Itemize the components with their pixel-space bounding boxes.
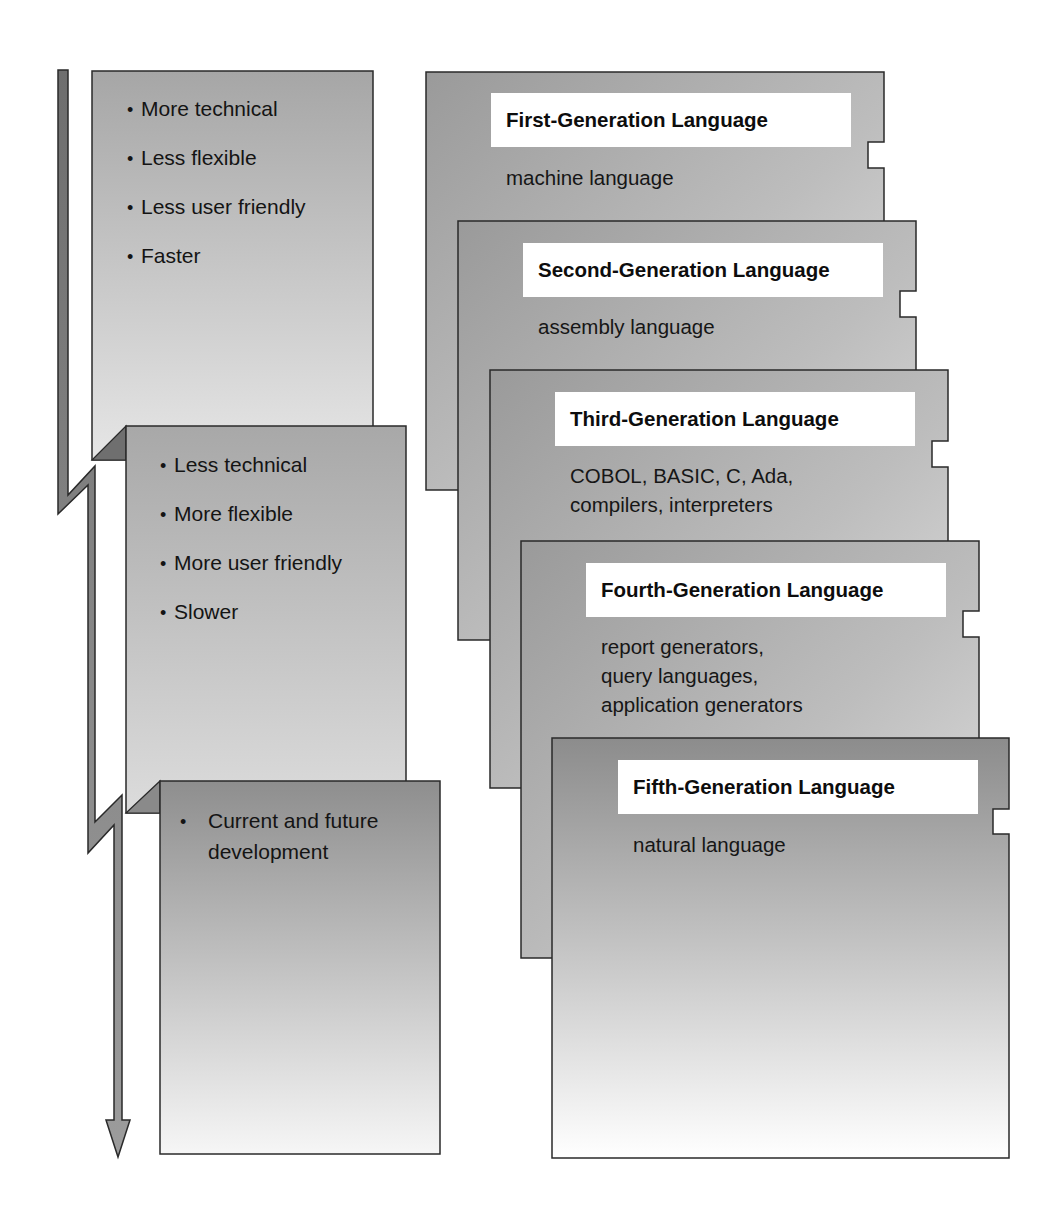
- generation-description-2: assembly language: [538, 312, 715, 341]
- generation-title-1: First-Generation Language: [491, 93, 851, 147]
- generation-description-5: natural language: [633, 830, 786, 859]
- characteristic-item: More flexible: [160, 490, 342, 539]
- characteristics-list-1: More technical Less flexible Less user f…: [127, 85, 306, 281]
- characteristic-item: Slower: [160, 588, 342, 637]
- characteristics-list-3: Current and future development: [194, 806, 414, 866]
- characteristics-list-2: Less technical More flexible More user f…: [160, 441, 342, 637]
- characteristic-item: Less technical: [160, 441, 342, 490]
- generation-description-3: COBOL, BASIC, C, Ada, compilers, interpr…: [570, 461, 793, 519]
- generation-title-4: Fourth-Generation Language: [586, 563, 946, 617]
- characteristic-item: Faster: [127, 232, 306, 281]
- generation-title-3: Third-Generation Language: [555, 392, 915, 446]
- generation-title-2: Second-Generation Language: [523, 243, 883, 297]
- generation-description-4: report generators, query languages, appl…: [601, 632, 803, 719]
- characteristic-item: Current and future development: [194, 806, 414, 866]
- generation-description-1: machine language: [506, 163, 674, 192]
- characteristic-item: More technical: [127, 85, 306, 134]
- generation-title-5: Fifth-Generation Language: [618, 760, 978, 814]
- characteristic-item: Less user friendly: [127, 183, 306, 232]
- characteristic-item: More user friendly: [160, 539, 342, 588]
- characteristic-item: Less flexible: [127, 134, 306, 183]
